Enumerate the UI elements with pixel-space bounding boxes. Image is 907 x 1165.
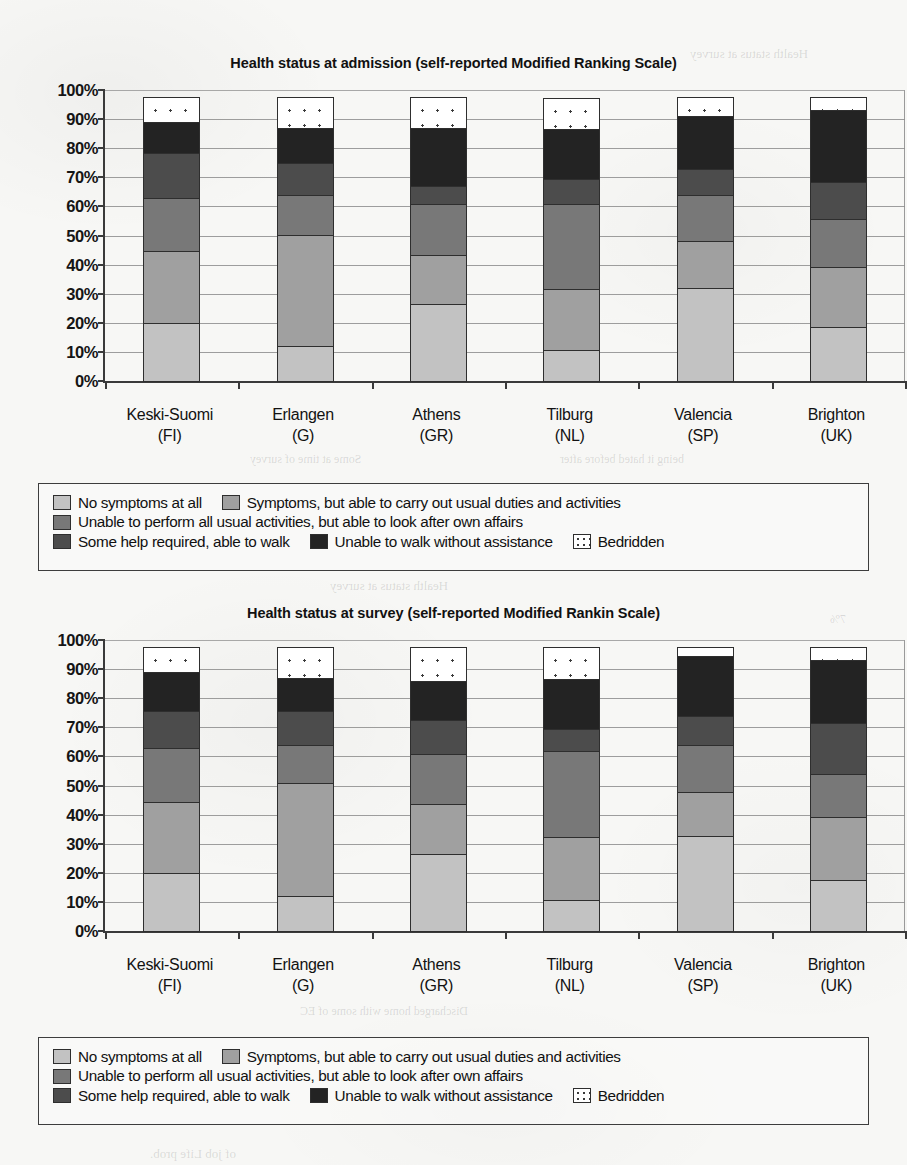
bar-segment[interactable] (810, 97, 867, 112)
bar-segment[interactable] (677, 792, 734, 837)
bar-segment[interactable] (410, 97, 467, 129)
bar-segment[interactable] (410, 647, 467, 682)
bar-segment[interactable] (277, 195, 334, 236)
bar-segment[interactable] (143, 198, 200, 252)
bar-segment[interactable] (277, 783, 334, 896)
bar-segment[interactable] (810, 774, 867, 818)
bar-segment[interactable] (410, 204, 467, 256)
x-axis-category-label: Tilburg(NL) (503, 954, 636, 996)
bar-segment[interactable] (410, 720, 467, 755)
bar-segment[interactable] (410, 304, 467, 383)
bar-segment[interactable] (410, 255, 467, 304)
bar-segment[interactable] (543, 729, 600, 752)
bar-segment[interactable] (810, 880, 867, 932)
bar-segment[interactable] (543, 350, 600, 382)
bar-segment[interactable] (143, 322, 200, 382)
stacked-bar[interactable] (543, 90, 600, 381)
bar-segment[interactable] (677, 647, 734, 657)
bar-segment[interactable] (543, 679, 600, 730)
bar-segment[interactable] (543, 204, 600, 290)
stacked-bar[interactable] (677, 90, 734, 381)
bar-segment[interactable] (410, 754, 467, 805)
bar-segment[interactable] (143, 711, 200, 749)
legend-item-label: Unable to perform all usual activities, … (78, 513, 523, 531)
bar-segment[interactable] (677, 716, 734, 747)
y-axis-tick-label: 100% (57, 631, 98, 650)
legend-item[interactable]: Symptoms, but able to carry out usual du… (222, 1048, 621, 1066)
bar-segment[interactable] (143, 802, 200, 873)
legend-item[interactable]: No symptoms at all (53, 494, 202, 512)
legend-item[interactable]: Bedridden (573, 533, 665, 551)
bar-segment[interactable] (810, 327, 867, 382)
legend-item[interactable]: Symptoms, but able to carry out usual du… (222, 494, 621, 512)
bar-segment[interactable] (277, 896, 334, 932)
legend-item[interactable]: Unable to walk without assistance (310, 533, 553, 551)
bar-segment[interactable] (677, 745, 734, 793)
bar-segment[interactable] (677, 241, 734, 289)
bar-segment[interactable] (277, 647, 334, 679)
stacked-bar[interactable] (143, 90, 200, 381)
legend-item[interactable]: Some help required, able to walk (53, 1087, 290, 1105)
bar-segment[interactable] (677, 169, 734, 197)
bar-segment[interactable] (277, 97, 334, 129)
bar-segment[interactable] (677, 97, 734, 117)
bar-segment[interactable] (143, 672, 200, 713)
stacked-bar[interactable] (543, 640, 600, 931)
bar-segment[interactable] (677, 195, 734, 242)
bar-segment[interactable] (677, 656, 734, 717)
legend-item[interactable]: No symptoms at all (53, 1048, 202, 1066)
bar-segment[interactable] (277, 711, 334, 746)
stacked-bar[interactable] (677, 640, 734, 931)
bar-segment[interactable] (810, 647, 867, 662)
bar-segment[interactable] (277, 678, 334, 713)
bar-segment[interactable] (810, 218, 867, 267)
bar-segment[interactable] (543, 98, 600, 130)
bar-segment[interactable] (543, 837, 600, 901)
bar-segment[interactable] (143, 153, 200, 200)
stacked-bar[interactable] (810, 90, 867, 381)
bar-segment[interactable] (143, 647, 200, 673)
bar-segment[interactable] (810, 182, 867, 220)
bar-segment[interactable] (810, 110, 867, 183)
bar-segment[interactable] (277, 163, 334, 196)
bar-segment[interactable] (810, 660, 867, 724)
bar-segment[interactable] (143, 97, 200, 123)
stacked-bar[interactable] (143, 640, 200, 931)
bar-segment[interactable] (410, 680, 467, 721)
bar-segment[interactable] (543, 289, 600, 352)
bar-segment[interactable] (277, 128, 334, 164)
bar-segment[interactable] (677, 288, 734, 383)
bar-segment[interactable] (143, 748, 200, 803)
legend-color-swatch-icon (53, 1088, 71, 1103)
stacked-bar[interactable] (410, 640, 467, 931)
bar-segment[interactable] (410, 186, 467, 205)
bar-segment[interactable] (143, 251, 200, 324)
bar-segment[interactable] (410, 854, 467, 933)
legend-item[interactable]: Some help required, able to walk (53, 533, 290, 551)
bar-segment[interactable] (810, 723, 867, 775)
bar-segment[interactable] (810, 267, 867, 328)
stacked-bar[interactable] (410, 90, 467, 381)
bar-segment[interactable] (543, 129, 600, 180)
bar-segment[interactable] (277, 235, 334, 347)
bar-segment[interactable] (543, 179, 600, 205)
bar-segment[interactable] (277, 346, 334, 382)
legend-item[interactable]: Unable to perform all usual activities, … (53, 1067, 523, 1085)
bar-segment[interactable] (143, 122, 200, 154)
legend-item[interactable]: Bedridden (573, 1087, 665, 1105)
bar-segment[interactable] (543, 900, 600, 932)
bar-segment[interactable] (677, 836, 734, 932)
bar-segment[interactable] (277, 745, 334, 784)
bar-segment[interactable] (143, 872, 200, 932)
stacked-bar[interactable] (810, 640, 867, 931)
bar-segment[interactable] (810, 817, 867, 881)
bar-segment[interactable] (543, 647, 600, 680)
stacked-bar[interactable] (277, 90, 334, 381)
bar-segment[interactable] (677, 116, 734, 170)
bar-segment[interactable] (543, 751, 600, 838)
legend-item[interactable]: Unable to walk without assistance (310, 1087, 553, 1105)
bar-segment[interactable] (410, 804, 467, 855)
bar-segment[interactable] (410, 128, 467, 188)
stacked-bar[interactable] (277, 640, 334, 931)
legend-item[interactable]: Unable to perform all usual activities, … (53, 513, 523, 531)
